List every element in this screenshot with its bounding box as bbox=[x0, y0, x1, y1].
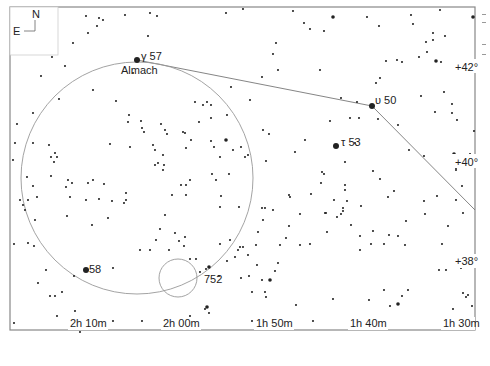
label-58: 58 bbox=[89, 263, 101, 275]
star bbox=[61, 291, 63, 293]
star bbox=[309, 243, 311, 245]
star bbox=[377, 118, 379, 120]
star bbox=[274, 270, 276, 272]
star bbox=[436, 195, 438, 197]
star bbox=[182, 131, 184, 133]
star bbox=[154, 149, 156, 151]
star bbox=[198, 121, 200, 123]
star bbox=[162, 169, 164, 171]
star bbox=[13, 322, 15, 324]
star bbox=[183, 245, 185, 247]
star bbox=[455, 199, 457, 201]
star bbox=[451, 112, 453, 114]
star bbox=[462, 292, 464, 294]
star bbox=[379, 178, 381, 180]
ra-label-1h30m: 1h 30m bbox=[443, 317, 480, 329]
star bbox=[128, 114, 130, 116]
star bbox=[26, 176, 28, 178]
star bbox=[379, 77, 381, 79]
star bbox=[13, 243, 15, 245]
star bbox=[37, 282, 39, 284]
star bbox=[51, 56, 53, 58]
star bbox=[171, 194, 173, 196]
star bbox=[331, 15, 335, 19]
star-chart: N E γ 57 Almach υ 50 τ 53 58 752 +42° +4… bbox=[0, 0, 490, 366]
star bbox=[303, 22, 305, 24]
star bbox=[53, 161, 55, 163]
star bbox=[71, 182, 73, 184]
star bbox=[103, 183, 105, 185]
star bbox=[275, 42, 277, 44]
star bbox=[54, 152, 56, 154]
star bbox=[189, 258, 191, 260]
star bbox=[156, 15, 158, 17]
star bbox=[375, 82, 377, 84]
star bbox=[107, 217, 109, 219]
star bbox=[56, 156, 58, 158]
star bbox=[292, 10, 294, 12]
star bbox=[124, 14, 126, 16]
star bbox=[368, 299, 370, 301]
dec-label-38: +38° bbox=[455, 255, 478, 267]
star bbox=[268, 278, 272, 282]
star bbox=[58, 98, 60, 100]
star bbox=[264, 291, 266, 293]
star bbox=[333, 199, 335, 201]
star bbox=[426, 51, 428, 53]
star bbox=[184, 132, 186, 134]
star bbox=[27, 199, 29, 201]
star bbox=[356, 101, 358, 103]
star bbox=[219, 243, 221, 245]
star bbox=[323, 173, 325, 175]
star bbox=[141, 127, 143, 129]
star bbox=[98, 17, 100, 19]
star bbox=[323, 30, 325, 32]
star bbox=[350, 224, 352, 226]
star bbox=[272, 53, 274, 55]
star bbox=[257, 231, 259, 233]
star bbox=[299, 213, 301, 215]
star bbox=[285, 237, 287, 239]
star bbox=[333, 143, 339, 149]
star bbox=[452, 308, 454, 310]
star bbox=[249, 99, 251, 101]
star bbox=[125, 199, 127, 201]
star bbox=[344, 189, 346, 191]
star bbox=[255, 244, 257, 246]
star bbox=[444, 35, 446, 37]
star bbox=[65, 186, 67, 188]
star bbox=[412, 23, 414, 25]
star bbox=[24, 209, 26, 211]
star bbox=[219, 206, 221, 208]
ra-label-2h10m: 2h 10m bbox=[70, 317, 107, 329]
star bbox=[383, 243, 385, 245]
star bbox=[261, 207, 263, 209]
star bbox=[447, 225, 449, 227]
star bbox=[389, 305, 391, 307]
star bbox=[199, 271, 201, 273]
star bbox=[129, 146, 131, 148]
star bbox=[387, 196, 389, 198]
star bbox=[205, 305, 209, 309]
star bbox=[423, 155, 425, 157]
star bbox=[34, 219, 36, 221]
star bbox=[445, 269, 447, 271]
star bbox=[383, 289, 385, 291]
star bbox=[185, 147, 187, 149]
star bbox=[461, 185, 463, 187]
star bbox=[215, 179, 217, 181]
star bbox=[48, 144, 50, 146]
star bbox=[346, 200, 348, 202]
star bbox=[205, 268, 207, 270]
star bbox=[304, 139, 306, 141]
ra-label-1h50m: 1h 50m bbox=[256, 317, 293, 329]
star bbox=[208, 312, 210, 314]
star bbox=[67, 179, 69, 181]
dec-label-40: +40° bbox=[455, 156, 478, 168]
star bbox=[224, 138, 228, 142]
star bbox=[16, 123, 18, 125]
star bbox=[279, 244, 281, 246]
star bbox=[408, 149, 410, 151]
star bbox=[359, 235, 361, 237]
star bbox=[336, 216, 338, 218]
